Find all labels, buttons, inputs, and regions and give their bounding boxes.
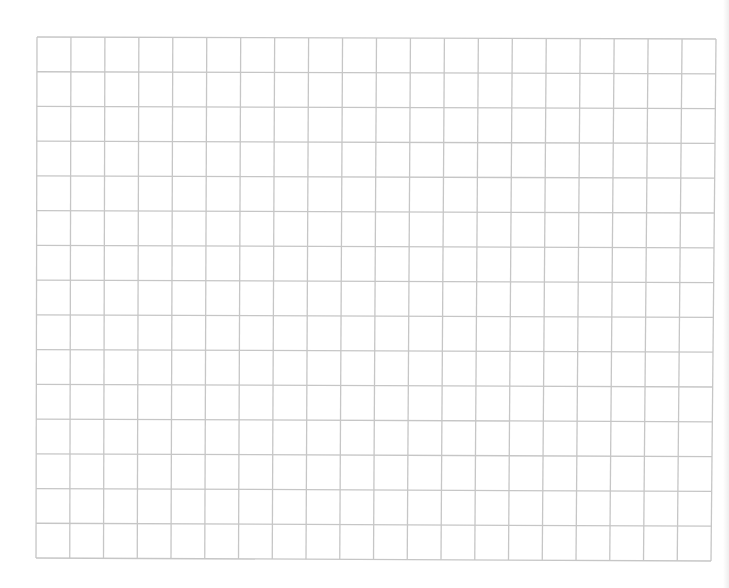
grid-vertical-line: [610, 39, 614, 561]
grid-vertical-line: [374, 38, 377, 560]
grid-vertical-line: [104, 37, 105, 558]
grid-vertical-line: [70, 37, 71, 558]
grid-vertical-line: [306, 38, 309, 559]
grid-vertical-line: [36, 37, 37, 558]
grid-vertical-line: [205, 38, 207, 559]
grid-vertical-line: [171, 37, 173, 558]
grid-vertical-line: [137, 37, 139, 558]
page-edge-shadow: [723, 0, 729, 588]
grid-vertical-line: [441, 38, 444, 560]
grid-vertical-line: [644, 39, 649, 561]
grid-vertical-line: [542, 39, 546, 561]
grid-vertical-line: [475, 38, 479, 560]
grid-vertical-line: [576, 39, 580, 561]
grid-vertical-line: [272, 38, 274, 559]
grid-lines: [36, 37, 716, 561]
grid-vertical-line: [509, 38, 513, 560]
grid-vertical-line: [340, 38, 343, 559]
grid-vertical-line: [407, 38, 410, 560]
grid-vertical-line: [711, 39, 716, 561]
grid-vertical-line: [677, 39, 682, 561]
grid-vertical-line: [239, 38, 241, 559]
graph-paper-grid: [0, 0, 729, 588]
